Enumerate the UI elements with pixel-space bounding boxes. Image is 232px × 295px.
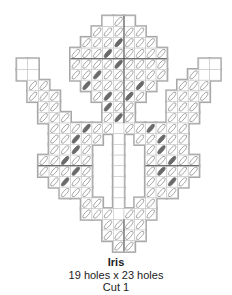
pattern-title: Iris [0,256,232,268]
pattern-cut-count: Cut 1 [0,281,232,293]
pattern-dimensions: 19 holes x 23 holes [0,269,232,281]
iris-pattern-grid [0,0,232,255]
